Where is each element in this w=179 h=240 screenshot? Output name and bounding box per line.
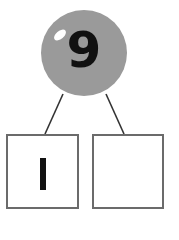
part-value-left: [40, 158, 46, 190]
whole-value: 9: [64, 20, 104, 80]
connector-left: [45, 94, 63, 134]
connector-right: [106, 94, 124, 134]
part-box-left[interactable]: [6, 134, 79, 209]
part-box-right[interactable]: [92, 134, 164, 209]
